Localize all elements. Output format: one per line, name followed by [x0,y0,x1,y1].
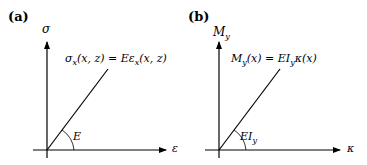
panel-a: (a) σ ε E σx(x, z) = Eεx(x, z) [8,9,178,158]
moment-curvature-equation: My(x) = EIyκ(x) [230,52,317,67]
kappa-axis-label: κ [346,142,355,155]
diagram-canvas: (a) σ ε E σx(x, z) = Eεx(x, z) (b) My κ … [0,0,367,165]
panel-b: (b) My κ EIy My(x) = EIyκ(x) [188,9,355,158]
panel-a-label: (a) [8,9,29,24]
slope-label-EIy: EIy [239,130,257,145]
moment-axis-label: My [212,25,230,41]
panel-b-label: (b) [188,9,209,24]
slope-label-E: E [72,130,81,143]
epsilon-axis-label: ε [172,142,178,155]
sigma-axis-label: σ [42,22,51,36]
stress-strain-equation: σx(x, z) = Eεx(x, z) [65,52,167,67]
